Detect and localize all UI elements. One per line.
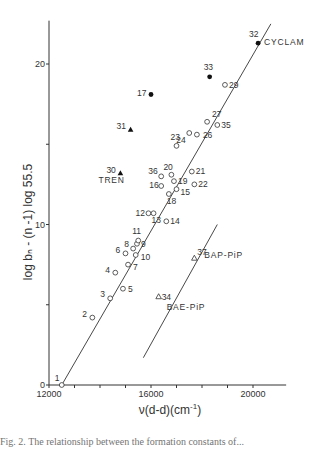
annotation-label: BAE-PiP [167, 302, 206, 312]
point-label: 29 [229, 80, 239, 90]
point-label: 33 [204, 62, 214, 72]
data-point [156, 294, 162, 299]
point-label: 6 [116, 245, 121, 255]
point-label: 17 [137, 88, 147, 98]
point-label: 36 [148, 166, 158, 176]
data-point [149, 92, 154, 97]
x-axis-label-end: ) [197, 403, 201, 417]
x-axis-label: ν(d-d)(cm-1) [100, 402, 240, 417]
annotation-label: BAP-PiP [204, 250, 243, 260]
data-point [123, 251, 128, 256]
data-point [187, 131, 192, 136]
data-points [59, 41, 260, 388]
tick-labels: 12000160002000001020 [35, 59, 266, 399]
point-label: 4 [105, 265, 110, 275]
annotation-label: CYCLAM [264, 37, 304, 47]
data-point [133, 253, 138, 258]
y-tick-label: 10 [35, 220, 45, 230]
data-point [174, 187, 179, 192]
data-point [192, 255, 198, 260]
data-point [146, 211, 151, 216]
point-label: 8 [124, 239, 129, 249]
point-label: 35 [221, 120, 231, 130]
data-point [59, 383, 64, 388]
data-point [215, 123, 220, 128]
data-point [136, 238, 141, 243]
scatter-chart: 12000160002000001020 1234567891011121314… [0, 0, 309, 449]
x-tick-label: 20000 [240, 389, 265, 399]
figure-caption: Fig. 2. The relationship between the for… [0, 436, 309, 447]
annotation-label: TREN [98, 175, 124, 185]
point-label: 32 [249, 29, 259, 39]
x-tick-label: 12000 [36, 389, 61, 399]
point-label: 1 [55, 373, 60, 383]
point-label: 12 [135, 208, 145, 218]
data-point [256, 41, 261, 46]
data-point [169, 172, 174, 177]
point-labels: 1234567891011121314151618192021222324262… [55, 29, 305, 383]
data-point [108, 296, 113, 301]
point-label: 15 [181, 187, 191, 197]
point-label: 11 [132, 226, 141, 236]
x-tick-label: 16000 [138, 389, 163, 399]
data-point [223, 82, 228, 87]
point-label: 5 [128, 284, 133, 294]
y-tick-label: 20 [35, 59, 45, 69]
point-label: 27 [212, 109, 222, 119]
point-label: 34 [162, 292, 172, 302]
point-label: 20 [163, 162, 173, 172]
x-axis-label-main: ν(d-d)(cm [139, 403, 190, 417]
data-point [192, 182, 197, 187]
data-point [164, 219, 169, 224]
fit-line [143, 225, 217, 358]
point-label: 14 [170, 216, 180, 226]
point-label: 18 [167, 196, 177, 206]
data-point [90, 315, 95, 320]
point-label: 21 [196, 166, 206, 176]
y-tick-label: 0 [40, 380, 45, 390]
data-point [126, 262, 131, 267]
data-point [195, 132, 200, 137]
point-label: 30 [106, 165, 116, 175]
point-label: 16 [149, 180, 159, 190]
point-label: 22 [198, 179, 208, 189]
point-label: 24 [176, 135, 186, 145]
data-point [131, 246, 136, 251]
data-point [121, 286, 126, 291]
data-point [128, 127, 134, 132]
point-label: 2 [82, 309, 87, 319]
point-label: 31 [117, 121, 127, 131]
point-label: 19 [178, 176, 188, 186]
point-label: 10 [141, 252, 151, 262]
point-label: 9 [141, 239, 146, 249]
point-label: 7 [133, 262, 138, 272]
point-label: 26 [203, 130, 213, 140]
point-label: 3 [100, 289, 105, 299]
data-point [113, 270, 118, 275]
data-point [159, 174, 164, 179]
data-point [205, 119, 210, 124]
data-point [172, 179, 177, 184]
y-axis-label: log bₙ - (n -1) log 55.5 [21, 132, 35, 312]
data-point [189, 169, 194, 174]
data-point [159, 184, 164, 189]
point-label: 13 [152, 215, 162, 225]
data-point [207, 74, 212, 79]
